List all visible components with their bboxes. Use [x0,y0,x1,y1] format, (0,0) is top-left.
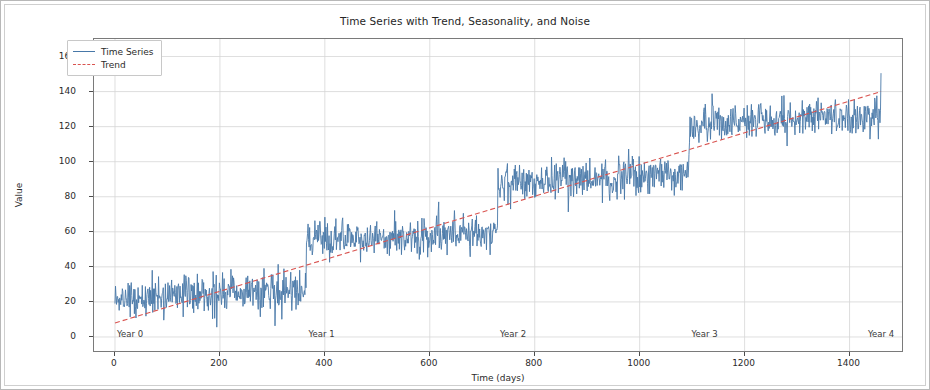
x-tick-1000: 1000 [627,358,650,368]
annotation-year-4: Year 4 [868,329,894,339]
x-tick-200: 200 [210,358,227,368]
x-tick-mark-200 [219,352,220,356]
legend-label-trend: Trend [101,60,126,70]
y-tick-60: 60 [0,226,76,236]
chart-legend: Time Series Trend [67,40,162,76]
plot-area: Year 0Year 1Year 2Year 3Year 4 [93,38,903,352]
y-tick-100: 100 [0,156,76,166]
legend-item-time-series: Time Series [73,45,154,58]
chart-title: Time Series with Trend, Seasonality, and… [5,15,925,27]
legend-item-trend: Trend [73,58,154,71]
legend-swatch-trend [73,64,95,65]
time-series-line [115,74,881,328]
x-tick-1400: 1400 [837,358,860,368]
x-tick-mark-600 [429,352,430,356]
figure-canvas: Time Series with Trend, Seasonality, and… [0,0,930,390]
y-tick-40: 40 [0,261,76,271]
x-tick-0: 0 [111,358,117,368]
x-tick-1200: 1200 [732,358,755,368]
x-tick-mark-0 [114,352,115,356]
figure-inner-frame: Time Series with Trend, Seasonality, and… [4,4,926,386]
plot-svg [94,39,902,351]
y-tick-120: 120 [0,121,76,131]
annotation-year-1: Year 1 [308,329,334,339]
y-tick-160: 160 [0,51,76,61]
x-tick-mark-1400 [849,352,850,356]
y-tick-80: 80 [0,191,76,201]
annotation-year-3: Year 3 [692,329,718,339]
x-tick-mark-1200 [744,352,745,356]
x-tick-800: 800 [525,358,542,368]
x-tick-mark-1000 [639,352,640,356]
y-tick-0: 0 [0,331,76,341]
y-tick-140: 140 [0,86,76,96]
y-tick-20: 20 [0,296,76,306]
annotation-year-0: Year 0 [117,329,143,339]
x-tick-mark-800 [534,352,535,356]
x-axis-label: Time (days) [471,373,524,383]
legend-swatch-time-series [73,51,95,52]
annotation-year-2: Year 2 [500,329,526,339]
x-tick-600: 600 [420,358,437,368]
x-tick-mark-400 [324,352,325,356]
x-tick-400: 400 [315,358,332,368]
legend-label-time-series: Time Series [101,47,154,57]
